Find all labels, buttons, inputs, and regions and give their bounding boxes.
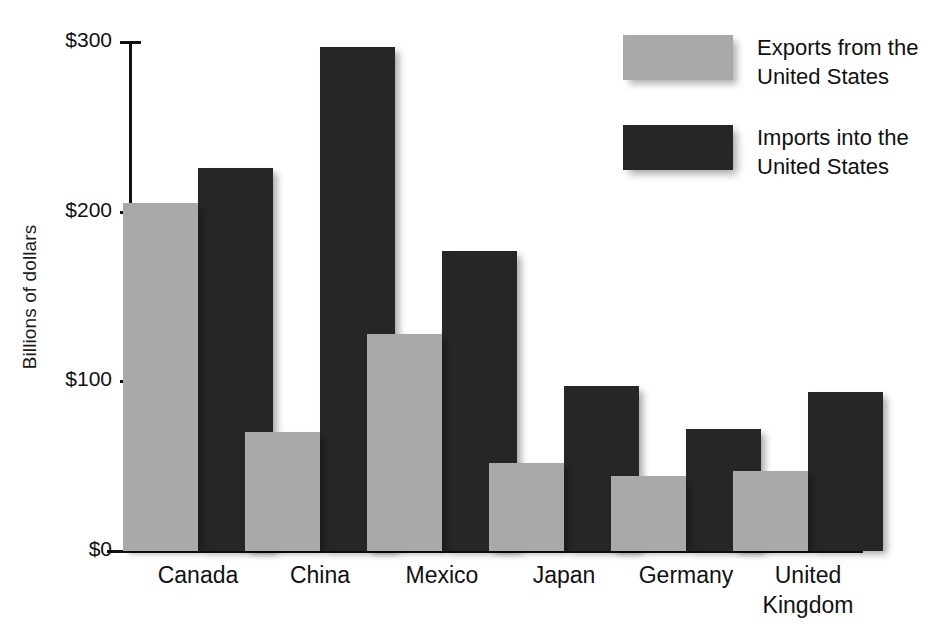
- bar-exports: [367, 334, 442, 551]
- bar-exports: [489, 463, 564, 551]
- legend-item: Exports from the United States: [623, 33, 943, 91]
- legend-label: Imports into the United States: [757, 123, 909, 181]
- legend-item: Imports into the United States: [623, 123, 943, 181]
- y-axis-tick-label-text: $300: [65, 28, 112, 52]
- bar-exports: [733, 471, 808, 551]
- y-axis-tick: [120, 41, 141, 44]
- legend-swatch-exports: [623, 35, 733, 80]
- x-axis-category-label: United Kingdom: [701, 560, 915, 620]
- bar-exports: [123, 203, 198, 551]
- bar-chart: Billions of dollars $0$100$200$300Canada…: [0, 0, 948, 642]
- bar-exports: [611, 476, 686, 551]
- y-axis-tick-label-text: $200: [65, 198, 112, 222]
- y-axis-tick-label-text: $0: [89, 537, 112, 561]
- bar-imports: [808, 392, 883, 551]
- legend-label: Exports from the United States: [757, 33, 918, 91]
- y-axis-tick-label-text: $100: [65, 367, 112, 391]
- bar-exports: [245, 432, 320, 551]
- chart-legend: Exports from the United StatesImports in…: [623, 33, 943, 213]
- legend-swatch-imports: [623, 125, 733, 170]
